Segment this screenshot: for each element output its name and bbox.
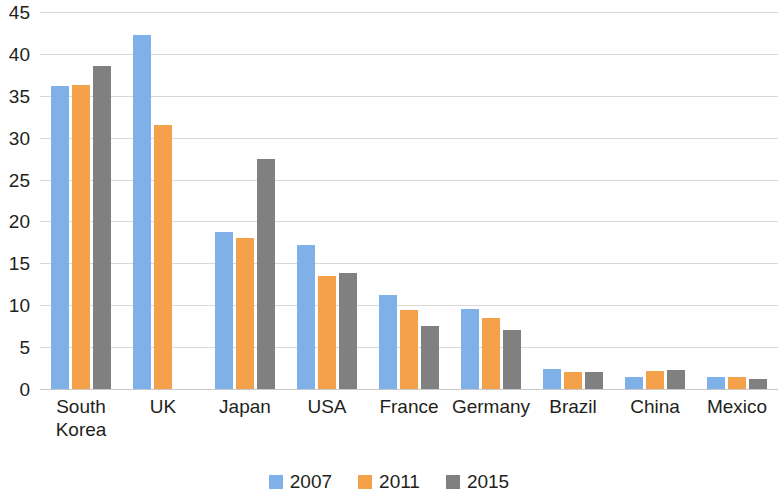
x-label-china: China (614, 395, 696, 418)
bar-2011 (72, 85, 90, 389)
legend-swatch-icon (358, 475, 372, 489)
legend-swatch-icon (269, 475, 283, 489)
y-tick-label-40: 40 (0, 45, 30, 64)
bar-2007 (461, 309, 479, 389)
bar-2007 (707, 377, 725, 389)
x-label-brazil: Brazil (532, 395, 614, 418)
bar-group (461, 12, 521, 389)
bars-layer (40, 12, 778, 389)
bar-2011 (728, 377, 746, 389)
bar-2015 (585, 372, 603, 389)
y-tick-label-10: 10 (0, 296, 30, 315)
bar-2007 (133, 35, 151, 389)
bar-group (51, 12, 111, 389)
y-tick-label-20: 20 (0, 212, 30, 231)
legend-label: 2015 (467, 472, 509, 491)
bar-2015 (503, 330, 521, 389)
bar-group (543, 12, 603, 389)
x-label-japan: Japan (204, 395, 286, 418)
bar-2007 (379, 295, 397, 389)
x-label-uk: UK (122, 395, 204, 418)
x-label-mexico: Mexico (696, 395, 778, 418)
bar-2011 (564, 372, 582, 389)
legend-item-2007[interactable]: 2007 (269, 472, 332, 491)
bar-2007 (625, 377, 643, 389)
legend-label: 2011 (379, 472, 420, 491)
bar-2007 (215, 232, 233, 390)
bar-2011 (646, 371, 664, 389)
bar-group (133, 12, 193, 389)
gridline-0 (40, 389, 778, 390)
bar-2015 (421, 326, 439, 389)
y-tick-label-45: 45 (0, 3, 30, 22)
bar-group (379, 12, 439, 389)
x-label-france: France (368, 395, 450, 418)
bar-2015 (749, 379, 767, 389)
legend-item-2011[interactable]: 2011 (358, 472, 420, 491)
bar-2015 (257, 159, 275, 389)
chart-legend: 200720112015 (0, 472, 778, 491)
legend-swatch-icon (446, 475, 460, 489)
bar-2007 (51, 86, 69, 389)
bar-2015 (93, 66, 111, 389)
bar-2015 (339, 273, 357, 389)
y-tick-label-25: 25 (0, 171, 30, 190)
bar-2007 (543, 369, 561, 389)
x-axis-category-labels: South KoreaUKJapanUSAFranceGermanyBrazil… (40, 395, 778, 455)
x-label-germany: Germany (450, 395, 532, 418)
y-tick-label-5: 5 (0, 338, 30, 357)
bar-2015 (667, 370, 685, 389)
bar-2011 (236, 238, 254, 389)
x-label-south-korea: South Korea (40, 395, 122, 441)
bar-2011 (154, 125, 172, 389)
bar-group (215, 12, 275, 389)
bar-group (625, 12, 685, 389)
x-label-usa: USA (286, 395, 368, 418)
legend-label: 2007 (290, 472, 332, 491)
y-tick-label-30: 30 (0, 129, 30, 148)
y-tick-label-15: 15 (0, 254, 30, 273)
bar-chart: 051015202530354045 South KoreaUKJapanUSA… (0, 0, 778, 501)
bar-2011 (400, 310, 418, 389)
bar-group (297, 12, 357, 389)
legend-item-2015[interactable]: 2015 (446, 472, 509, 491)
plot-area: 051015202530354045 (40, 12, 778, 389)
y-tick-label-0: 0 (0, 380, 30, 399)
bar-2011 (318, 276, 336, 389)
bar-group (707, 12, 767, 389)
bar-2011 (482, 318, 500, 389)
y-tick-label-35: 35 (0, 87, 30, 106)
bar-2007 (297, 245, 315, 389)
